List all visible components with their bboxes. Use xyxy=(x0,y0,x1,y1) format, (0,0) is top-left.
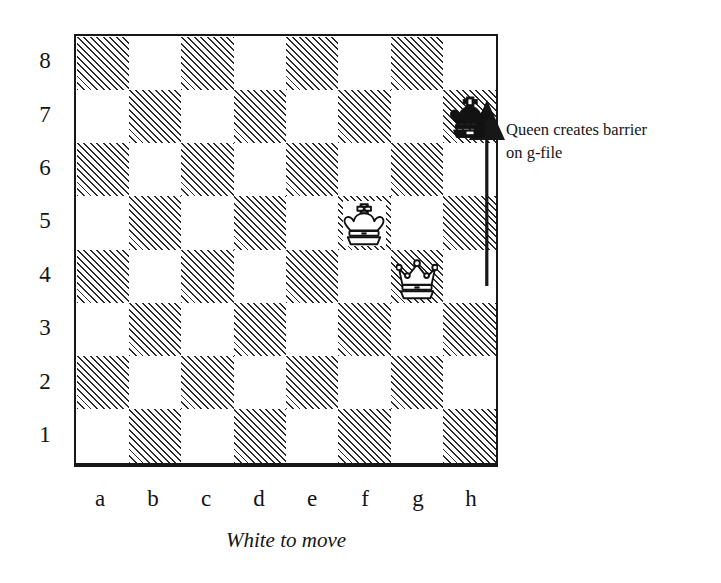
square-e5 xyxy=(286,196,338,249)
square-b7 xyxy=(129,90,181,143)
file-label-h: h xyxy=(451,487,491,510)
rank-label-4: 4 xyxy=(32,263,58,286)
file-label-g: g xyxy=(398,487,438,510)
square-c2 xyxy=(181,356,233,409)
square-a5 xyxy=(77,196,129,249)
square-c8 xyxy=(181,37,233,90)
file-label-c: c xyxy=(186,487,226,510)
square-c1 xyxy=(181,409,233,462)
square-f6 xyxy=(338,143,390,196)
square-e4 xyxy=(286,250,338,303)
square-g5 xyxy=(391,196,443,249)
square-g3 xyxy=(391,303,443,356)
square-e8 xyxy=(286,37,338,90)
square-b3 xyxy=(129,303,181,356)
square-f1 xyxy=(338,409,390,462)
file-label-f: f xyxy=(345,487,385,510)
square-e1 xyxy=(286,409,338,462)
square-b2 xyxy=(129,356,181,409)
square-f3 xyxy=(338,303,390,356)
file-label-a: a xyxy=(80,487,120,510)
rank-label-8: 8 xyxy=(32,49,58,72)
file-label-b: b xyxy=(133,487,173,510)
square-h3 xyxy=(443,303,495,356)
square-b8 xyxy=(129,37,181,90)
square-d2 xyxy=(234,356,286,409)
square-d5 xyxy=(234,196,286,249)
square-d8 xyxy=(234,37,286,90)
move-arrow xyxy=(463,94,511,294)
annotation-line-1: Queen creates barrier xyxy=(506,118,716,141)
square-d3 xyxy=(234,303,286,356)
square-g4 xyxy=(391,250,443,303)
square-c7 xyxy=(181,90,233,143)
square-g1 xyxy=(391,409,443,462)
square-c4 xyxy=(181,250,233,303)
rank-label-1: 1 xyxy=(32,423,58,446)
square-c3 xyxy=(181,303,233,356)
square-d1 xyxy=(234,409,286,462)
rank-label-7: 7 xyxy=(32,103,58,126)
square-g2 xyxy=(391,356,443,409)
square-f4 xyxy=(338,250,390,303)
square-g6 xyxy=(391,143,443,196)
square-b5 xyxy=(129,196,181,249)
square-f2 xyxy=(338,356,390,409)
square-d7 xyxy=(234,90,286,143)
square-f5 xyxy=(338,196,390,249)
square-e2 xyxy=(286,356,338,409)
square-h1 xyxy=(443,409,495,462)
square-h8 xyxy=(443,37,495,90)
annotation-text: Queen creates barrier on g-file xyxy=(506,118,716,165)
rank-label-5: 5 xyxy=(32,209,58,232)
file-label-d: d xyxy=(239,487,279,510)
square-a3 xyxy=(77,303,129,356)
square-g8 xyxy=(391,37,443,90)
square-e7 xyxy=(286,90,338,143)
square-a2 xyxy=(77,356,129,409)
square-b1 xyxy=(129,409,181,462)
file-label-e: e xyxy=(292,487,332,510)
square-c5 xyxy=(181,196,233,249)
square-a6 xyxy=(77,143,129,196)
square-c6 xyxy=(181,143,233,196)
annotation-line-2: on g-file xyxy=(506,141,716,164)
square-f8 xyxy=(338,37,390,90)
square-a1 xyxy=(77,409,129,462)
chess-diagram: 8 7 6 5 4 3 2 1 a b c d e f g h xyxy=(0,0,721,583)
chess-board xyxy=(74,34,498,467)
square-h2 xyxy=(443,356,495,409)
square-d6 xyxy=(234,143,286,196)
square-b6 xyxy=(129,143,181,196)
rank-label-6: 6 xyxy=(32,156,58,179)
square-f7 xyxy=(338,90,390,143)
square-e6 xyxy=(286,143,338,196)
square-d4 xyxy=(234,250,286,303)
board-squares xyxy=(77,37,496,463)
square-a4 xyxy=(77,250,129,303)
diagram-caption: White to move xyxy=(74,528,498,553)
square-a7 xyxy=(77,90,129,143)
square-b4 xyxy=(129,250,181,303)
square-a8 xyxy=(77,37,129,90)
square-e3 xyxy=(286,303,338,356)
rank-label-2: 2 xyxy=(32,370,58,393)
square-g7 xyxy=(391,90,443,143)
rank-label-3: 3 xyxy=(32,316,58,339)
